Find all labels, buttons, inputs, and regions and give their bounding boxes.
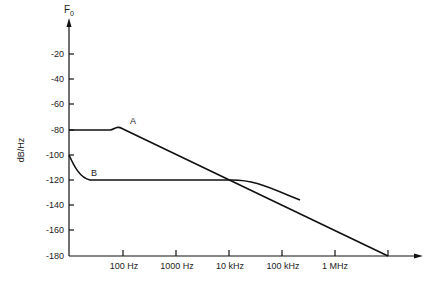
y-tick-label: -40	[51, 74, 64, 84]
x-ticks	[123, 250, 388, 256]
y-tick-label: -180	[46, 251, 64, 261]
x-axis	[69, 254, 423, 259]
chart-canvas: F0 dB/Hz -20 -40 -60 -80 -100 -120 -140 …	[0, 0, 442, 287]
y-tick-label: -80	[51, 125, 64, 135]
y-tick-label: -120	[46, 175, 64, 185]
x-tick-label: 100 Hz	[110, 261, 139, 271]
x-tick-label: 1000 Hz	[160, 261, 194, 271]
y-ticks	[69, 54, 74, 230]
x-tick-label: 1 MHz	[322, 261, 349, 271]
y-tick-label: -160	[46, 225, 64, 235]
curve-a	[69, 127, 388, 256]
y-tick-label: -60	[51, 99, 64, 109]
y-axis-top-label: F0	[64, 4, 74, 17]
x-tick-label: 100 kHz	[266, 261, 300, 271]
x-tick-label: 10 kHz	[216, 261, 245, 271]
curve-a-label: A	[130, 116, 136, 126]
y-axis-label: dB/Hz	[16, 137, 26, 162]
y-tick-label: -100	[46, 150, 64, 160]
curve-b-label: B	[91, 168, 97, 178]
y-tick-label: -140	[46, 200, 64, 210]
y-tick-labels: -20 -40 -60 -80 -100 -120 -140 -160 -180	[46, 49, 64, 261]
curve-b	[69, 155, 300, 200]
x-tick-labels: 100 Hz 1000 Hz 10 kHz 100 kHz 1 MHz	[110, 261, 349, 271]
y-tick-label: -20	[51, 49, 64, 59]
